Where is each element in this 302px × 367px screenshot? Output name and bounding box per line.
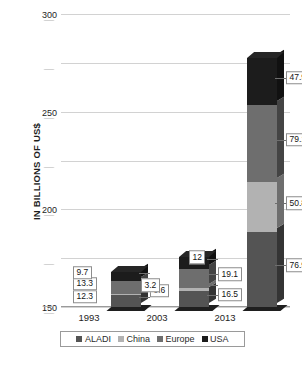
data-label: 9.7 — [73, 266, 92, 280]
legend-label: USA — [210, 334, 229, 344]
legend-item-china[interactable]: China — [118, 334, 150, 344]
data-label-leader-line — [275, 265, 286, 266]
data-label-leader-line — [275, 140, 286, 141]
bar-group: 12.30.613.39.716.53.219.11276.950.879.14… — [61, 14, 290, 307]
bar-segment-europe — [111, 281, 141, 294]
data-label: 19.1 — [218, 268, 242, 282]
bar-segment-europe — [247, 105, 277, 182]
data-label-leader-line — [207, 259, 218, 260]
y-axis-tick-label: 250 — [42, 108, 57, 118]
bar-segment-china — [111, 294, 141, 295]
data-label-leader-line — [207, 285, 218, 286]
data-label-leader-line — [207, 295, 218, 296]
x-axis-tick-label: 2013 — [214, 312, 235, 323]
data-label: 47.9 — [286, 71, 302, 85]
data-label-leader-line — [275, 203, 286, 204]
chart-legend: ALADIChinaEuropeUSA — [60, 331, 245, 347]
data-label: 76.9 — [286, 259, 302, 273]
bar-segment-aladi — [111, 295, 141, 307]
data-label: 3.2 — [141, 279, 160, 293]
stacked-bar — [179, 257, 209, 307]
bar-segment-side-face — [277, 174, 284, 228]
legend-item-usa[interactable]: USA — [202, 334, 229, 344]
data-label-leader-line — [139, 297, 150, 298]
stacked-bar — [247, 58, 277, 307]
bar-segment-aladi — [179, 291, 209, 307]
legend-label: ALADI — [85, 334, 111, 344]
legend-item-europe[interactable]: Europe — [157, 334, 195, 344]
legend-swatch — [202, 336, 208, 342]
bar-segment-usa — [247, 58, 277, 105]
legend-swatch — [76, 336, 82, 342]
data-label: 50.8 — [286, 196, 302, 210]
plot-area: 050100150200250300 12.30.613.39.716.53.2… — [52, 14, 290, 307]
data-label: 79.1 — [286, 133, 302, 147]
x-axis-ticks: 199320032013 — [61, 312, 290, 326]
legend-label: Europe — [165, 334, 194, 344]
data-label: 12.3 — [73, 290, 97, 304]
legend-item-aladi[interactable]: ALADI — [76, 334, 111, 344]
y-axis-tick-label: 200 — [42, 205, 57, 215]
stacked-column-chart: IN BILLIONS OF US$ 050100150200250300 12… — [0, 0, 302, 367]
bar-segment-europe — [179, 269, 209, 288]
bar-segment-side-face — [277, 224, 284, 303]
legend-swatch — [118, 336, 124, 342]
bar-segment-china — [247, 182, 277, 232]
data-label: 16.5 — [218, 288, 242, 302]
stacked-bar — [111, 272, 141, 307]
legend-swatch — [157, 336, 163, 342]
y-axis-title: IN BILLIONS OF US$ — [31, 91, 42, 251]
y-axis-tick-label: 300 — [42, 10, 57, 20]
bar-segment-usa — [111, 272, 141, 281]
x-axis-tick-label: 1993 — [78, 312, 99, 323]
data-label-leader-line — [275, 78, 286, 79]
bar-segment-side-face — [277, 50, 284, 101]
x-axis-tick-label: 2003 — [146, 312, 167, 323]
bar-segment-china — [179, 288, 209, 291]
legend-label: China — [126, 334, 150, 344]
bar-segment-aladi — [247, 232, 277, 307]
data-label-leader-line — [207, 274, 218, 275]
data-label: 12 — [189, 250, 205, 264]
bar-segment-side-face — [277, 97, 284, 179]
data-label-leader-line — [139, 273, 150, 274]
